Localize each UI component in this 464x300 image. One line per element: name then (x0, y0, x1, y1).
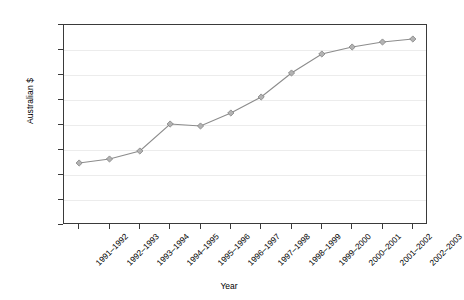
data-point-marker (349, 44, 355, 50)
x-tick-mark (382, 224, 383, 229)
x-tick-mark (260, 224, 261, 229)
x-tick-mark (230, 224, 231, 229)
x-tick-mark (109, 224, 110, 229)
x-tick-mark (291, 224, 292, 229)
data-point-marker (197, 123, 203, 129)
data-point-marker (76, 160, 82, 166)
data-series-line (64, 25, 428, 225)
x-tick-mark (169, 224, 170, 229)
x-tick-mark (78, 224, 79, 229)
x-tick-mark (351, 224, 352, 229)
data-point-marker (410, 36, 416, 42)
data-point-marker (379, 39, 385, 45)
data-point-marker (106, 156, 112, 162)
data-point-marker (228, 110, 234, 116)
x-tick-mark (321, 224, 322, 229)
x-tick-label: 1991–1992 (94, 232, 130, 268)
y-axis-title: Australian $ (25, 31, 35, 171)
series-polyline (79, 39, 413, 163)
x-tick-mark (412, 224, 413, 229)
plot-area (63, 24, 427, 224)
x-axis-title: Year (0, 281, 458, 291)
x-tick-mark (139, 224, 140, 229)
x-tick-mark (200, 224, 201, 229)
y-tick-mark (58, 224, 63, 225)
data-point-marker (319, 51, 325, 57)
